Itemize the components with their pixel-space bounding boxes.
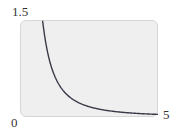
y-max-label: 1.5 [12, 5, 28, 18]
function-curve [0, 0, 177, 129]
origin-label: 0 [11, 116, 18, 129]
x-max-label: 5 [163, 108, 170, 121]
